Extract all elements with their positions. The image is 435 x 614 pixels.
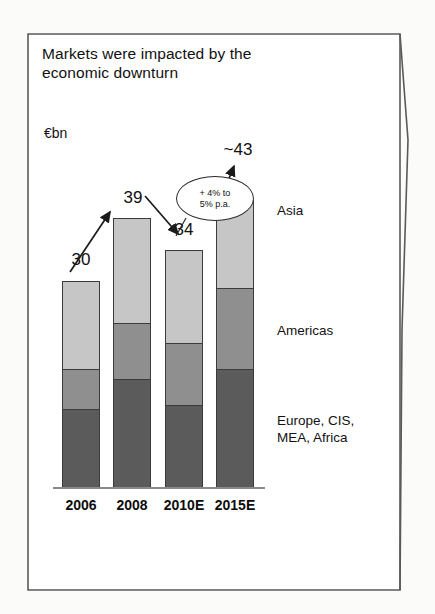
value-label-2015e: ~43 — [208, 140, 268, 160]
category-label-2015e: 2015E — [209, 497, 261, 513]
bar-segment-asia — [166, 251, 202, 343]
bar-2006[interactable] — [62, 281, 100, 487]
bar-segment-americas — [63, 369, 99, 409]
bar-2015e[interactable] — [216, 200, 254, 487]
callout-line-2: 5% p.a. — [200, 199, 231, 210]
legend-label-asia: Asia — [277, 202, 303, 219]
category-label-2010e: 2010E — [158, 497, 210, 513]
bar-segment-asia — [114, 219, 150, 323]
bar-segment-asia — [63, 282, 99, 369]
bar-segment-europe — [166, 405, 202, 488]
legend-label-europe-line-2: MEA, Africa — [277, 430, 348, 445]
bar-2008[interactable] — [113, 218, 151, 487]
callout-line-1: + 4% to — [200, 188, 231, 199]
category-label-2008: 2008 — [106, 497, 158, 513]
bar-segment-europe — [114, 379, 150, 488]
growth-callout: + 4% to 5% p.a. — [176, 176, 254, 221]
slide-container: Markets were impacted by the economic do… — [0, 0, 435, 614]
bar-segment-americas — [114, 323, 150, 379]
legend-label-europe-line-1: Europe, CIS, — [277, 413, 354, 428]
legend-label-europe: Europe, CIS, MEA, Africa — [277, 412, 354, 446]
value-label-2006: 30 — [55, 250, 107, 270]
category-label-2006: 2006 — [55, 497, 107, 513]
x-axis-line — [53, 487, 265, 489]
bar-segment-europe — [63, 409, 99, 488]
bar-segment-europe — [217, 369, 253, 488]
bar-segment-americas — [217, 288, 253, 369]
value-label-2008: 39 — [107, 188, 159, 208]
stacked-bar-chart — [0, 0, 435, 614]
legend-label-americas: Americas — [277, 322, 333, 339]
value-label-2010e: 34 — [158, 220, 210, 240]
bar-2010e[interactable] — [165, 250, 203, 487]
bar-segment-americas — [166, 343, 202, 405]
